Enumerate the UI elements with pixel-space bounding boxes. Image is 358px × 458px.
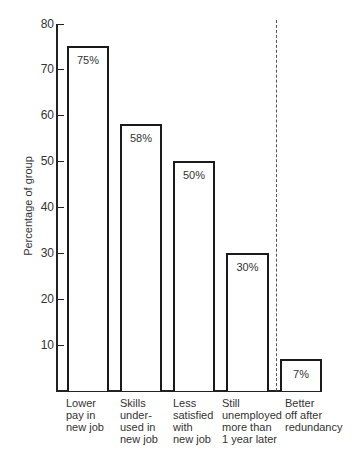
- bar-value-label: 30%: [228, 261, 267, 273]
- bar-lower-pay: 75%: [67, 46, 109, 391]
- bar-skills-underused: 58%: [120, 124, 162, 391]
- bar-less-satisfied: 50%: [173, 161, 215, 391]
- y-tick-20: [57, 299, 64, 300]
- y-tick-80: [57, 24, 64, 25]
- bar-value-label: 75%: [69, 54, 107, 66]
- bar-value-label: 58%: [122, 132, 160, 144]
- bar-better-off: 7%: [280, 359, 322, 391]
- bar-still-unemployed: 30%: [226, 253, 269, 391]
- y-tick-70: [57, 69, 64, 70]
- bar-chart: Percentage of group 10 20 30 40 50 60 70…: [0, 0, 358, 458]
- y-tick-label-80: 80: [24, 18, 54, 30]
- y-tick-label-40: 40: [24, 201, 54, 213]
- y-tick-40: [57, 207, 64, 208]
- dashed-divider: [276, 20, 277, 391]
- y-tick-10: [57, 345, 64, 346]
- y-tick-label-50: 50: [24, 155, 54, 167]
- x-category-label: Less satisfied with new job: [173, 397, 213, 445]
- x-category-label: Skills under- used in new job: [120, 397, 158, 445]
- y-tick-label-60: 60: [24, 109, 54, 121]
- x-category-label: Lower pay in new job: [66, 397, 104, 433]
- bar-value-label: 50%: [175, 169, 213, 181]
- y-tick-label-10: 10: [24, 339, 54, 351]
- x-category-label: Better off after redundancy: [285, 397, 343, 433]
- y-tick-30: [57, 253, 64, 254]
- y-tick-label-30: 30: [24, 247, 54, 259]
- y-tick-label-70: 70: [24, 63, 54, 75]
- x-category-label: Still unemployed more than 1 year later: [222, 397, 282, 445]
- y-tick-60: [57, 115, 64, 116]
- bar-value-label: 7%: [282, 368, 320, 380]
- y-tick-50: [57, 161, 64, 162]
- y-tick-label-20: 20: [24, 293, 54, 305]
